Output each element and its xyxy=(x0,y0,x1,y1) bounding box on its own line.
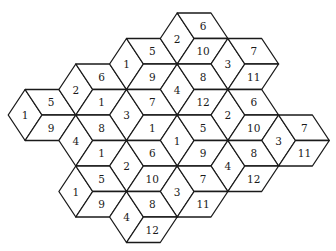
rhombus-label: 9 xyxy=(98,198,105,210)
rhombus-label: 7 xyxy=(250,45,257,57)
rhombus-label: 10 xyxy=(196,45,209,57)
rhombus-label: 10 xyxy=(247,122,260,134)
rhombus-label: 1 xyxy=(98,96,105,108)
rhombus-label: 1 xyxy=(123,58,130,70)
rhombus-label: 6 xyxy=(250,96,257,108)
rhombus-label: 5 xyxy=(48,96,55,108)
rhombus-label: 2 xyxy=(72,84,79,96)
rhombus-label: 3 xyxy=(174,186,181,198)
rhombus-label: 4 xyxy=(225,160,232,172)
rhombus-label: 5 xyxy=(200,122,207,134)
rhombus-label: 11 xyxy=(196,198,209,210)
rhombus-label: 8 xyxy=(200,71,207,83)
rhombus-label: 3 xyxy=(123,109,130,121)
rhombus-label: 7 xyxy=(301,122,308,134)
rhombus-label: 1 xyxy=(174,135,181,147)
rhombus-label: 6 xyxy=(98,71,105,83)
rhombus-label: 4 xyxy=(72,135,79,147)
tile-layer xyxy=(8,13,329,243)
rhombus-label: 1 xyxy=(22,109,29,121)
rhombus-label: 8 xyxy=(250,147,257,159)
rhombus-label: 12 xyxy=(196,96,209,108)
rhombus-label: 5 xyxy=(149,45,156,57)
rhombus-label: 6 xyxy=(149,147,156,159)
rhombus-label: 2 xyxy=(123,160,130,172)
rhombus-label: 1 xyxy=(98,147,105,159)
rhombus-label: 6 xyxy=(200,20,207,32)
rhombus-label: 11 xyxy=(247,71,260,83)
rhombus-label: 4 xyxy=(174,84,181,96)
rhombus-label: 1 xyxy=(149,122,156,134)
rhombus-label: 4 xyxy=(123,211,130,223)
rhombus-label: 9 xyxy=(48,122,55,134)
rhombus-label: 8 xyxy=(98,122,105,134)
rhombus-label: 2 xyxy=(225,109,232,121)
rhombus-label: 11 xyxy=(298,147,311,159)
rhombus-label: 7 xyxy=(149,96,156,108)
rhombus-tiling-diagram: 1592611592610371148123714812610371115926… xyxy=(0,0,336,251)
rhombus-label: 9 xyxy=(149,71,156,83)
rhombus-label: 12 xyxy=(247,173,260,185)
rhombus-label: 10 xyxy=(146,173,159,185)
rhombus-label: 2 xyxy=(174,33,181,45)
rhombus-label: 3 xyxy=(275,135,282,147)
rhombus-label: 3 xyxy=(225,58,232,70)
rhombus-label: 12 xyxy=(146,224,159,236)
rhombus-label: 5 xyxy=(98,173,105,185)
rhombus-label: 8 xyxy=(149,198,156,210)
rhombus-label: 1 xyxy=(72,186,79,198)
rhombus-label: 7 xyxy=(200,173,207,185)
rhombus-label: 9 xyxy=(200,147,207,159)
